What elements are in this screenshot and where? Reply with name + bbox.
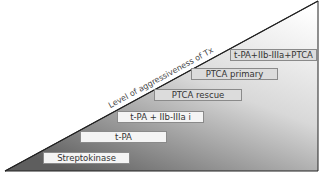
step-tpa-iib-iiia: t-PA + IIb-IIIa i — [117, 111, 204, 123]
step-streptokinase: Streptokinase — [43, 152, 130, 164]
step-ptca-primary: PTCA primary — [191, 68, 278, 80]
aggressiveness-triangle — [0, 0, 321, 175]
step-ptca-rescue: PTCA rescue — [154, 89, 242, 101]
step-tpa: t-PA — [80, 131, 167, 143]
step-tpa-iib-iiia-ptca: t-PA+IIb-IIIa+PTCA — [230, 49, 317, 61]
